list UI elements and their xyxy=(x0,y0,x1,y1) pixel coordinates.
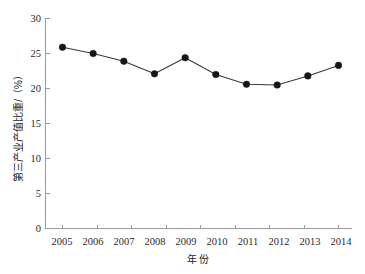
x-axis-title: 年 份 xyxy=(187,253,210,265)
y-tick-label-25: 25 xyxy=(31,48,42,59)
x-tick-label-2006: 2006 xyxy=(83,236,104,247)
y-tick-label-5: 5 xyxy=(36,188,41,199)
data-point xyxy=(151,71,158,78)
y-axis-title: 第三产业产值比重/（%） xyxy=(12,70,24,182)
x-tick-label-2009: 2009 xyxy=(176,236,197,247)
x-tick-label-2010: 2010 xyxy=(207,236,228,247)
x-tick-label-2012: 2012 xyxy=(269,236,290,247)
data-point xyxy=(243,81,250,88)
x-tick-label-2005: 2005 xyxy=(52,236,73,247)
y-tick-label-30: 30 xyxy=(31,13,42,24)
data-point xyxy=(121,58,128,65)
y-tick-label-20: 20 xyxy=(31,83,42,94)
y-tick-label-0: 0 xyxy=(36,223,41,234)
x-tick-label-2014: 2014 xyxy=(331,236,353,247)
chart-background xyxy=(0,0,365,274)
data-point xyxy=(182,54,189,61)
data-point xyxy=(305,73,312,80)
line-chart: 0 5 10 15 20 25 30 2005 2006 2007 2008 xyxy=(0,0,365,274)
data-point xyxy=(274,82,281,89)
x-tick-label-2011: 2011 xyxy=(238,236,259,247)
y-tick-label-15: 15 xyxy=(31,118,42,129)
data-point xyxy=(213,71,220,78)
data-point xyxy=(59,44,66,51)
data-point xyxy=(90,50,97,57)
chart-figure: 0 5 10 15 20 25 30 2005 2006 2007 2008 xyxy=(0,0,365,274)
y-tick-label-10: 10 xyxy=(31,153,42,164)
x-tick-label-2013: 2013 xyxy=(300,236,321,247)
x-tick-label-2007: 2007 xyxy=(114,236,135,247)
data-point xyxy=(335,62,342,69)
x-tick-label-2008: 2008 xyxy=(145,236,166,247)
